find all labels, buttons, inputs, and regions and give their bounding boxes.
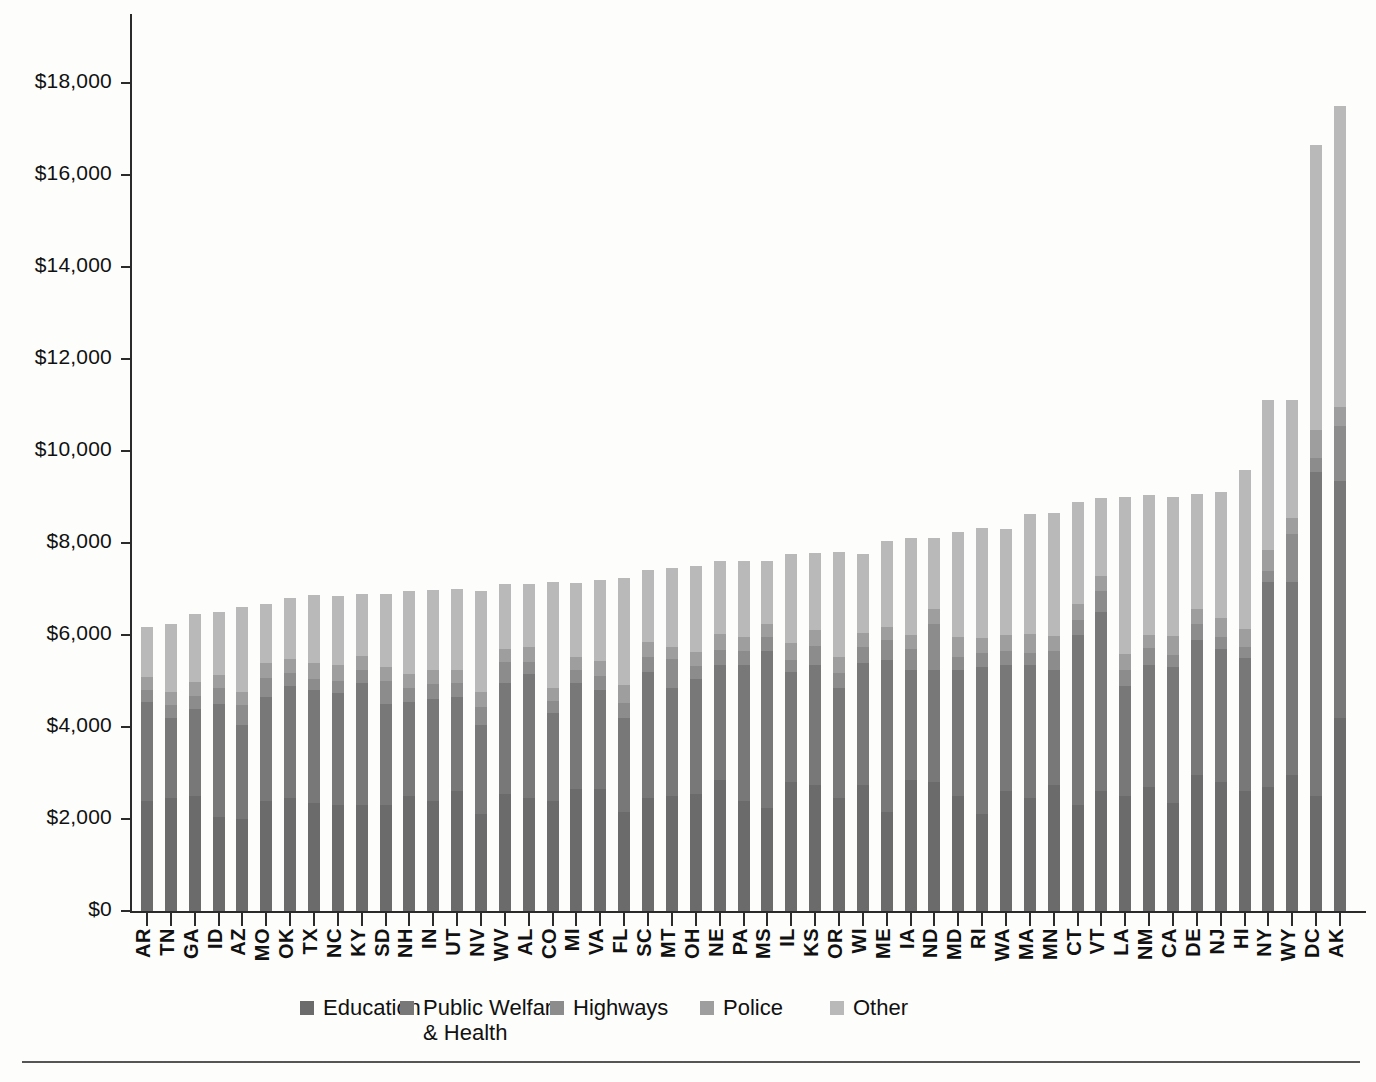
chart-page: $0$2,000$4,000$6,000$8,000$10,000$12,000… [0, 0, 1376, 1082]
legend-swatch-icon [300, 1001, 314, 1015]
bar-segment [523, 674, 535, 798]
bar-segment [1048, 636, 1060, 651]
x-axis-tick [1148, 913, 1150, 926]
legend-item-highways[interactable]: Highways [550, 995, 668, 1020]
bar-segment [236, 607, 248, 691]
bar-segment [833, 657, 845, 673]
y-axis-tick [121, 82, 130, 84]
legend-item-police[interactable]: Police [700, 995, 783, 1020]
bar-segment [976, 814, 988, 911]
bar-segment [1119, 686, 1131, 796]
bar-segment [976, 638, 988, 653]
bar-segment [1048, 513, 1060, 636]
bar-segment [1072, 805, 1084, 911]
bar-segment [1310, 430, 1322, 458]
bar-segment [857, 785, 869, 912]
legend-swatch-icon [700, 1001, 714, 1015]
legend-label: Police [723, 995, 783, 1020]
bar-segment [260, 697, 272, 801]
bar-segment [236, 819, 248, 911]
bar-segment [1239, 629, 1251, 647]
x-axis-label-AK: AK [1330, 928, 1342, 958]
bar-segment [1048, 651, 1060, 669]
x-axis-tick [432, 913, 434, 926]
y-axis-tick [121, 266, 130, 268]
bar-segment [1095, 591, 1107, 612]
bar-segment [499, 683, 511, 793]
bar-segment [165, 624, 177, 693]
x-axis-tick [552, 913, 554, 926]
x-axis-label-NC: NC [328, 928, 340, 958]
legend-item-public-welfare[interactable]: Public Welfare & Health [400, 995, 564, 1045]
bar-segment [761, 637, 773, 651]
bar-segment [785, 643, 797, 660]
legend-item-other[interactable]: Other [830, 995, 908, 1020]
x-axis-label-OK: OK [280, 928, 292, 959]
x-axis-label-TN: TN [161, 928, 173, 956]
y-axis-tick-label: $16,000 [35, 161, 112, 185]
bar-segment [1191, 624, 1203, 640]
x-axis-label-RI: RI [972, 928, 984, 949]
bar-segment [618, 578, 630, 684]
bar-segment [1191, 640, 1203, 776]
bar-segment [499, 662, 511, 684]
x-axis-label-AR: AR [137, 928, 149, 958]
bar-segment [451, 791, 463, 911]
bar-segment [1286, 518, 1298, 534]
y-axis-tick [121, 358, 130, 360]
bar-segment [1334, 426, 1346, 481]
y-axis-tick-label: $10,000 [35, 437, 112, 461]
legend-swatch-icon [830, 1001, 844, 1015]
bar-segment [881, 541, 893, 627]
bar-segment [785, 672, 797, 782]
x-axis-tick [1077, 913, 1079, 926]
x-axis-tick [289, 913, 291, 926]
x-axis-labels: ARTNGAIDAZMOOKTXNCKYSDNHINUTNVWVALCOMIVA… [130, 928, 1366, 974]
bar-segment [475, 692, 487, 707]
x-axis-label-WI: WI [853, 928, 865, 953]
x-axis-label-VA: VA [590, 928, 602, 955]
x-axis-tick [933, 913, 935, 926]
bar-segment [905, 538, 917, 635]
bar-segment [738, 637, 750, 651]
x-axis-tick [170, 913, 172, 926]
x-axis-tick [766, 913, 768, 926]
bar-segment [666, 796, 678, 911]
bar-segment [403, 796, 415, 911]
bar-segment [403, 702, 415, 796]
x-axis-tick [886, 913, 888, 926]
x-axis-label-FL: FL [614, 928, 626, 953]
bar-segment [1119, 670, 1131, 685]
bar-segment [236, 692, 248, 706]
x-axis-tick [623, 913, 625, 926]
bar-segment [714, 665, 726, 780]
bar-segment [690, 794, 702, 911]
bar-segment [523, 647, 535, 662]
x-axis-tick [838, 913, 840, 926]
bar-segment [1000, 665, 1012, 792]
x-axis-tick [504, 913, 506, 926]
bar-segment [332, 665, 344, 681]
bar-segment [1167, 655, 1179, 667]
bar-segment [1239, 647, 1251, 658]
legend-swatch-icon [400, 1001, 414, 1015]
bar-segment [570, 670, 582, 683]
bar-segment [427, 801, 439, 911]
bar-segment [809, 646, 821, 665]
bar-segment [690, 666, 702, 678]
bar-segment [284, 598, 296, 659]
x-axis-label-IL: IL [781, 928, 793, 947]
bar-segment [189, 614, 201, 682]
bar-segment [260, 663, 272, 678]
bar-segment [403, 688, 415, 702]
bar-segment [833, 673, 845, 688]
bar-segment [905, 670, 917, 780]
bar-segment [1215, 649, 1227, 782]
bar-segment [618, 812, 630, 911]
bar-segment [1310, 472, 1322, 796]
bar-segment [785, 660, 797, 672]
bar-segment [1262, 400, 1274, 550]
bar-segment [475, 591, 487, 692]
bar-segment [260, 801, 272, 911]
bar-segment [594, 661, 606, 676]
